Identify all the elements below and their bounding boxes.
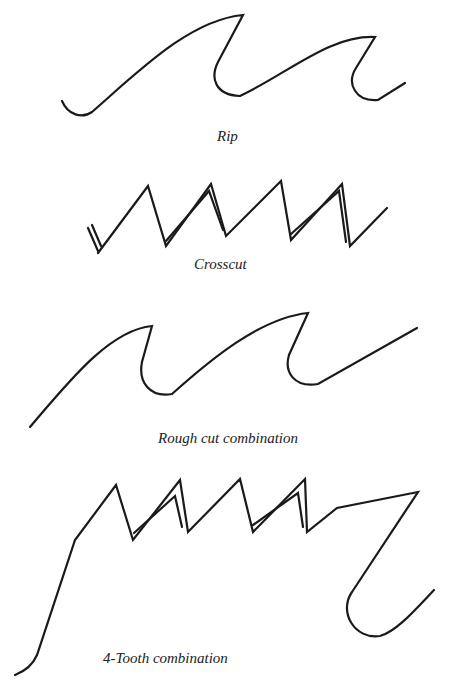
- caption-four-tooth-combination: 4-Tooth combination: [103, 650, 228, 667]
- crosscut-tooth-profile: [88, 181, 387, 253]
- four-tooth-combination-tooth-profile: [15, 479, 434, 675]
- rip-tooth-profile: [62, 15, 405, 115]
- saw-tooth-profiles-diagram: [0, 0, 456, 699]
- caption-rough-cut-combination: Rough cut combination: [158, 430, 298, 447]
- caption-rip: Rip: [217, 128, 238, 145]
- caption-crosscut: Crosscut: [194, 256, 247, 273]
- rough-cut-combination-tooth-profile: [30, 313, 417, 427]
